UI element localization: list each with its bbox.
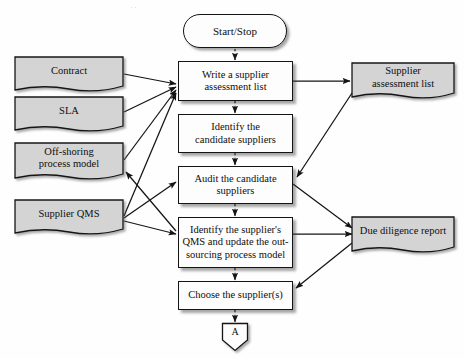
document-label: Supplier assessment list <box>351 62 455 93</box>
process-identify-candidates[interactable]: Identify the candidate suppliers <box>178 114 293 153</box>
process-identify-qms-update-model[interactable]: Identify the supplier's QMS and update t… <box>178 217 293 268</box>
offpage-connector-a[interactable]: A <box>221 322 249 352</box>
edge-o2-to-p5 <box>296 243 352 288</box>
edge-contract-to-p1 <box>124 74 176 84</box>
document-label: SLA <box>14 96 124 126</box>
document-label: Contract <box>14 56 124 86</box>
process-choose-supplier[interactable]: Choose the supplier(s) <box>178 281 293 310</box>
edge-o1-to-p3 <box>297 93 352 177</box>
process-label: Choose the supplier(s) <box>188 289 283 301</box>
document-supplier-assessment-list[interactable]: Supplier assessment list <box>351 62 455 99</box>
document-label: Supplier QMS <box>14 199 124 229</box>
process-label: Identify the supplier's QMS and update t… <box>182 224 288 261</box>
connector-label: A <box>221 322 249 341</box>
edge-p4-to-offshoring <box>126 172 176 231</box>
document-sla[interactable]: SLA <box>14 96 124 132</box>
document-label: Due diligence report <box>351 216 455 247</box>
edge-p3-to-o2 <box>293 184 352 228</box>
document-contract[interactable]: Contract <box>14 56 124 92</box>
document-offshoring-process-model[interactable]: Off-shoring process model <box>14 142 124 180</box>
process-label: Audit the candidate suppliers <box>194 173 276 198</box>
process-label: Write a supplier assessment list <box>202 69 269 94</box>
process-audit-candidates[interactable]: Audit the candidate suppliers <box>178 166 293 204</box>
document-supplier-qms[interactable]: Supplier QMS <box>14 199 124 235</box>
terminator-label: Start/Stop <box>213 25 257 37</box>
terminator-start-stop[interactable]: Start/Stop <box>183 14 287 48</box>
process-write-assessment-list[interactable]: Write a supplier assessment list <box>178 61 293 101</box>
document-label: Off-shoring process model <box>14 142 124 174</box>
scan-artifact: ·· <box>130 2 138 12</box>
edge-offshoring-to-p1 <box>124 90 176 160</box>
flowchart-canvas: ·· <box>0 0 464 358</box>
process-label: Identify the candidate suppliers <box>195 121 276 146</box>
edge-qms-to-p1 <box>124 93 176 216</box>
document-due-diligence-report[interactable]: Due diligence report <box>351 216 455 253</box>
edge-qms-to-p4 <box>124 221 176 234</box>
